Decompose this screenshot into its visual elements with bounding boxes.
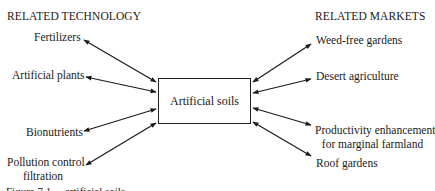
edge-bionutrients [84,109,156,131]
tech-node-pollution-control: Pollution control filtration [7,156,79,182]
market-node-desert-agriculture: Desert agriculture [316,70,399,82]
tech-node-artificial-plants: Artificial plants [12,69,85,81]
tech-node-pollution-control-line2: filtration [7,170,79,182]
figure-caption: Figure 7.1 ... artificial soils [6,185,125,191]
edge-artificial-plants [86,77,156,92]
tech-node-pollution-control-line1: Pollution control [7,156,79,168]
edge-pollution-control [86,123,156,165]
edge-desert-agriculture [253,79,311,93]
right-heading: RELATED MARKETS [315,10,425,22]
market-node-productivity-line2: for marginal farmland [315,138,430,150]
edge-roof-gardens [253,122,311,156]
edge-productivity-enhancement [253,108,311,125]
market-node-productivity-line1: Productivity enhancement [315,124,430,136]
center-node-label: Artificial soils [170,94,239,109]
tech-node-fertilizers: Fertilizers [34,31,81,43]
tech-node-bionutrients: Bionutrients [26,126,83,138]
market-node-productivity-enhancement: Productivity enhancement for marginal fa… [315,124,430,150]
market-node-roof-gardens: Roof gardens [316,157,378,169]
edge-weed-free-gardens [253,44,311,82]
market-node-weed-free-gardens: Weed-free gardens [316,34,402,46]
center-node: Artificial soils [158,78,251,124]
edge-fertilizers [84,40,156,82]
left-heading: RELATED TECHNOLOGY [7,10,141,22]
